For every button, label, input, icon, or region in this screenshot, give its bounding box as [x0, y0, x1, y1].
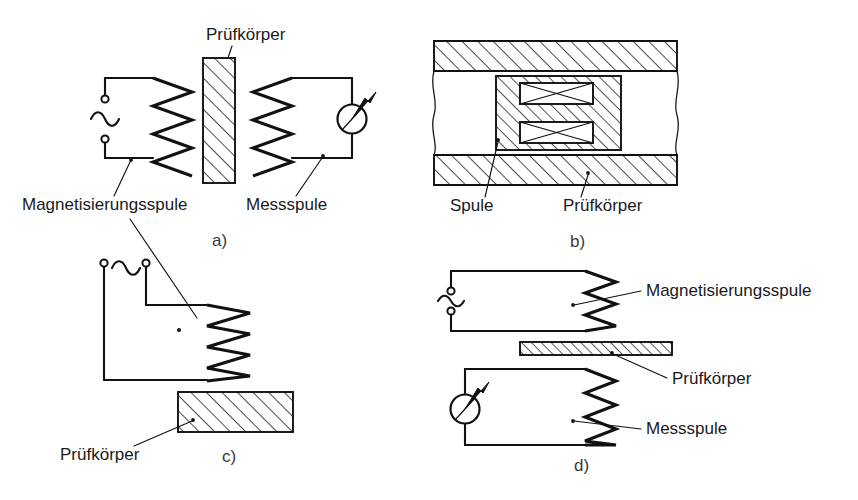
panel-a: Prüfkörper [22, 25, 376, 318]
panel-c-specimen-leader [134, 421, 192, 446]
panel-a-specimen-plate [203, 58, 235, 183]
figure-root: Prüfkörper [0, 0, 858, 500]
panel-b-specimen-leader-dot [586, 171, 590, 175]
panel-d-letter: d) [574, 456, 589, 475]
panel-d-measuring-coil-label: Messspule [646, 419, 727, 438]
panel-b-break-line-left [433, 71, 436, 155]
panel-d-measuring-coil-leader [574, 421, 641, 429]
panel-b: Spule Prüfkörper b) [433, 41, 679, 251]
panel-c-coil-leader-dot [177, 328, 181, 332]
panel-a-measuring-coil-leader [296, 158, 322, 196]
panel-a-ac-terminal-top [101, 95, 108, 102]
panel-d-ac-terminal-top [447, 287, 454, 294]
panel-d-specimen-leader-dot [610, 351, 614, 355]
panel-d-ac-sine-icon [438, 296, 464, 307]
panel-a-magnetizing-coil-leader [114, 162, 130, 196]
panel-d-measuring-coil [585, 369, 616, 445]
panel-d: Magnetisierungsspule Prüfkörper Messspul… [438, 271, 811, 475]
panel-c-letter: c) [222, 447, 236, 466]
panel-a-magnetizing-leader-dot [129, 158, 133, 162]
panel-d-magnetizing-leader-dot [571, 303, 575, 307]
panel-d-measuring-leader-dot [571, 419, 575, 423]
panel-c: Prüfkörper c) [60, 259, 293, 466]
panel-d-specimen-leader [613, 354, 667, 378]
panel-a-ac-sine-icon [91, 112, 119, 126]
panel-c-probe-coil [207, 305, 250, 381]
panel-b-specimen-upper-bar [434, 41, 677, 71]
panel-c-ac-terminal-right [142, 259, 149, 266]
panel-a-measuring-leader-dot [321, 154, 325, 158]
panel-a-ac-terminal-bottom [101, 135, 108, 142]
panel-b-break-line-right [676, 71, 679, 155]
panel-c-ac-terminal-left [100, 259, 107, 266]
panel-a-letter: a) [212, 231, 227, 250]
panel-d-magnetizing-coil-label: Magnetisierungsspule [646, 281, 811, 300]
panel-d-specimen-strip [520, 342, 672, 355]
panel-b-specimen-lower-bar [434, 155, 677, 185]
panel-b-letter: b) [570, 232, 585, 251]
panel-b-coil-label: Spule [450, 196, 493, 215]
panel-b-coil-leader-dot [496, 138, 500, 142]
panel-c-specimen-leader-dot [191, 418, 195, 422]
panel-c-specimen-label: Prüfkörper [60, 445, 140, 464]
panel-d-specimen-label: Prüfkörper [672, 369, 752, 388]
panel-a-measuring-coil-label: Messspule [246, 195, 327, 214]
panel-a-measuring-coil [253, 78, 292, 176]
panel-c-specimen-block [178, 392, 293, 432]
panel-d-ac-terminal-bottom [447, 307, 454, 314]
panel-d-magnetizing-coil [585, 271, 616, 331]
panel-a-specimen-label: Prüfkörper [206, 25, 286, 44]
panel-a-magnetizing-coil [153, 78, 192, 176]
panel-c-ac-sine-icon [112, 261, 140, 275]
technical-diagram-canvas: Prüfkörper [0, 0, 858, 500]
panel-b-specimen-label: Prüfkörper [563, 196, 643, 215]
panel-a-magnetizing-coil-label: Magnetisierungsspule [22, 195, 187, 214]
